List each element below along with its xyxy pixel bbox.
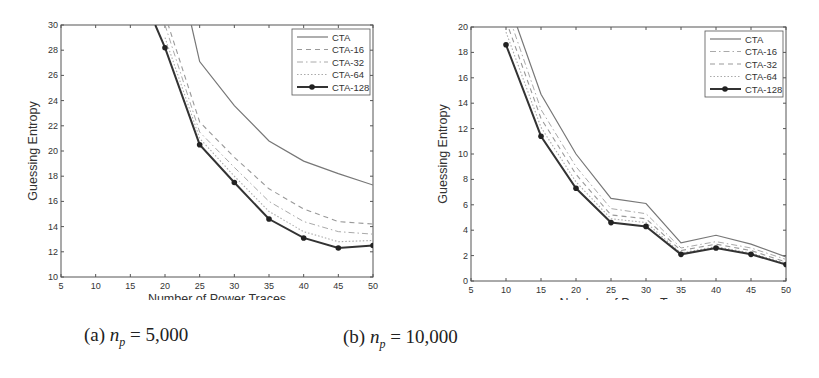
y-tick-label: 2 — [463, 251, 468, 261]
y-tick-label: 4 — [463, 225, 468, 235]
x-tick-label: 45 — [333, 281, 343, 291]
y-tick-label: 28 — [48, 45, 58, 55]
x-axis-label: Number of Power Traces — [148, 292, 286, 300]
caption-b-var: n — [370, 326, 380, 347]
x-tick-label: 40 — [711, 285, 721, 295]
x-tick-label: 50 — [368, 281, 378, 291]
y-tick-label: 16 — [48, 196, 58, 206]
y-tick-label: 12 — [48, 247, 58, 257]
chart-a: 5101520253035404550101214161820222426283… — [0, 0, 410, 300]
y-axis-label: Guessing Entropy — [436, 104, 450, 204]
caption-a: (a) np = 5,000 — [84, 324, 188, 350]
legend-label: CTA-16 — [332, 44, 364, 55]
legend-label: CTA-32 — [332, 57, 364, 68]
x-tick-label: 5 — [58, 281, 63, 291]
y-tick-label: 10 — [48, 272, 58, 282]
y-tick-label: 18 — [48, 171, 58, 181]
x-tick-label: 15 — [125, 281, 135, 291]
legend-label: CTA-64 — [332, 69, 364, 80]
x-tick-label: 50 — [781, 285, 791, 295]
y-tick-label: 20 — [458, 22, 468, 32]
data-marker — [608, 220, 614, 226]
caption-a-rest: = 5,000 — [125, 324, 188, 345]
x-tick-label: 20 — [160, 281, 170, 291]
x-tick-label: 5 — [468, 285, 473, 295]
x-tick-label: 35 — [676, 285, 686, 295]
legend-label: CTA-16 — [745, 46, 777, 57]
y-tick-label: 10 — [458, 149, 468, 159]
data-marker — [301, 235, 307, 241]
data-marker — [748, 252, 754, 258]
data-marker — [162, 45, 168, 51]
x-tick-label: 10 — [501, 285, 511, 295]
y-tick-label: 14 — [458, 98, 468, 108]
legend-label: CTA-128 — [745, 84, 782, 95]
legend-label: CTA — [745, 34, 764, 45]
data-marker — [266, 216, 272, 222]
y-tick-label: 8 — [463, 174, 468, 184]
caption-a-prefix: (a) — [84, 324, 110, 345]
legend-label: CTA-32 — [745, 59, 777, 70]
data-marker — [573, 185, 579, 191]
y-tick-label: 6 — [463, 200, 468, 210]
x-tick-label: 30 — [229, 281, 239, 291]
caption-b-prefix: (b) — [343, 326, 370, 347]
data-marker — [336, 245, 342, 251]
chart-a-plot: 5101520253035404550101214161820222426283… — [0, 0, 410, 300]
data-marker — [538, 133, 544, 139]
y-tick-label: 30 — [48, 20, 58, 30]
data-marker — [370, 243, 376, 249]
y-tick-label: 0 — [463, 276, 468, 286]
x-tick-label: 25 — [606, 285, 616, 295]
y-tick-label: 14 — [48, 222, 58, 232]
data-marker — [678, 252, 684, 258]
legend: CTACTA-16CTA-32CTA-64CTA-128 — [705, 31, 783, 97]
y-tick-label: 24 — [48, 96, 58, 106]
data-marker — [232, 180, 238, 186]
x-tick-label: 20 — [571, 285, 581, 295]
x-axis-label: Number of Power Traces — [559, 296, 697, 300]
legend-label: CTA — [332, 32, 351, 43]
caption-b-rest: = 10,000 — [385, 326, 457, 347]
x-tick-label: 40 — [299, 281, 309, 291]
x-tick-label: 30 — [641, 285, 651, 295]
y-tick-label: 12 — [458, 124, 468, 134]
y-tick-label: 26 — [48, 70, 58, 80]
data-marker — [197, 142, 203, 148]
x-tick-label: 10 — [91, 281, 101, 291]
caption-a-var: n — [110, 324, 120, 345]
x-tick-label: 15 — [536, 285, 546, 295]
chart-b: 510152025303540455002468101214161820Numb… — [410, 0, 819, 300]
data-marker — [783, 262, 789, 268]
data-marker — [643, 224, 649, 230]
x-tick-label: 25 — [195, 281, 205, 291]
legend: CTACTA-16CTA-32CTA-64CTA-128 — [292, 29, 370, 95]
y-tick-label: 16 — [458, 73, 468, 83]
x-tick-label: 45 — [746, 285, 756, 295]
y-tick-label: 18 — [458, 47, 468, 57]
data-marker — [713, 245, 719, 251]
chart-b-plot: 510152025303540455002468101214161820Numb… — [410, 0, 819, 300]
caption-b: (b) np = 10,000 — [343, 326, 458, 352]
legend-label: CTA-128 — [332, 82, 369, 93]
legend-label: CTA-64 — [745, 71, 777, 82]
y-tick-label: 20 — [48, 146, 58, 156]
data-marker — [503, 42, 509, 48]
x-tick-label: 35 — [264, 281, 274, 291]
y-tick-label: 22 — [48, 121, 58, 131]
y-axis-label: Guessing Entropy — [26, 101, 40, 201]
